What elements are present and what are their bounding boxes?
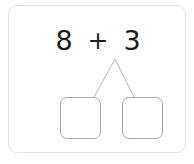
bond-branch-left (94, 59, 115, 97)
number-bond-worksheet-card: 8 + 3 (8, 5, 186, 153)
answer-box-left[interactable] (60, 97, 101, 139)
plus-operator-icon: + (81, 28, 115, 53)
answer-box-right[interactable] (122, 97, 163, 139)
equation-addend-first: 8 (47, 27, 81, 54)
equation-row: 8 + 3 (9, 24, 187, 56)
bond-branch-right (115, 59, 134, 97)
equation-addend-second: 3 (115, 27, 149, 54)
